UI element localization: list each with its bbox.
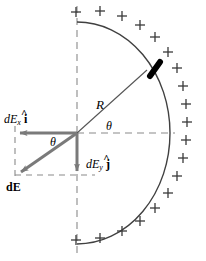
dE-resultant-label: dE	[6, 181, 21, 193]
plus-icon	[163, 47, 173, 57]
plus-icon	[182, 117, 192, 127]
dEx-vector-label: dEx ^i	[4, 113, 27, 127]
diagram-canvas	[0, 0, 206, 261]
positive-charge-signs	[71, 6, 192, 245]
plus-icon	[117, 11, 127, 21]
plus-icon	[172, 171, 182, 181]
hat-accent-icon: ^	[21, 108, 27, 119]
radius-line	[77, 70, 147, 133]
plus-icon	[163, 188, 173, 198]
charge-element-marker	[150, 62, 160, 76]
dE-resultant-vector-arrow	[21, 133, 77, 172]
hat-accent-icon: ^	[103, 153, 109, 164]
plus-icon	[172, 63, 182, 73]
plus-icon	[178, 153, 188, 163]
j-hat-unit-vector: ^j	[103, 158, 110, 170]
plus-icon	[181, 99, 191, 109]
i-hat-unit-vector: ^i	[21, 113, 27, 125]
radius-label: R	[96, 98, 104, 111]
plus-icon	[178, 81, 188, 91]
plus-icon	[150, 203, 160, 213]
plus-icon	[135, 20, 145, 30]
plus-icon	[150, 32, 160, 42]
plus-icon	[181, 135, 191, 145]
theta-center-label: θ	[106, 120, 112, 132]
electric-field-semicircle-diagram: R θ θ dEx ^i dEy ^j dE	[0, 0, 206, 261]
plus-icon	[95, 6, 105, 16]
plus-icon	[71, 7, 81, 17]
dEy-vector-label: dEy ^j	[86, 158, 110, 172]
theta-lower-label: θ	[50, 136, 56, 148]
